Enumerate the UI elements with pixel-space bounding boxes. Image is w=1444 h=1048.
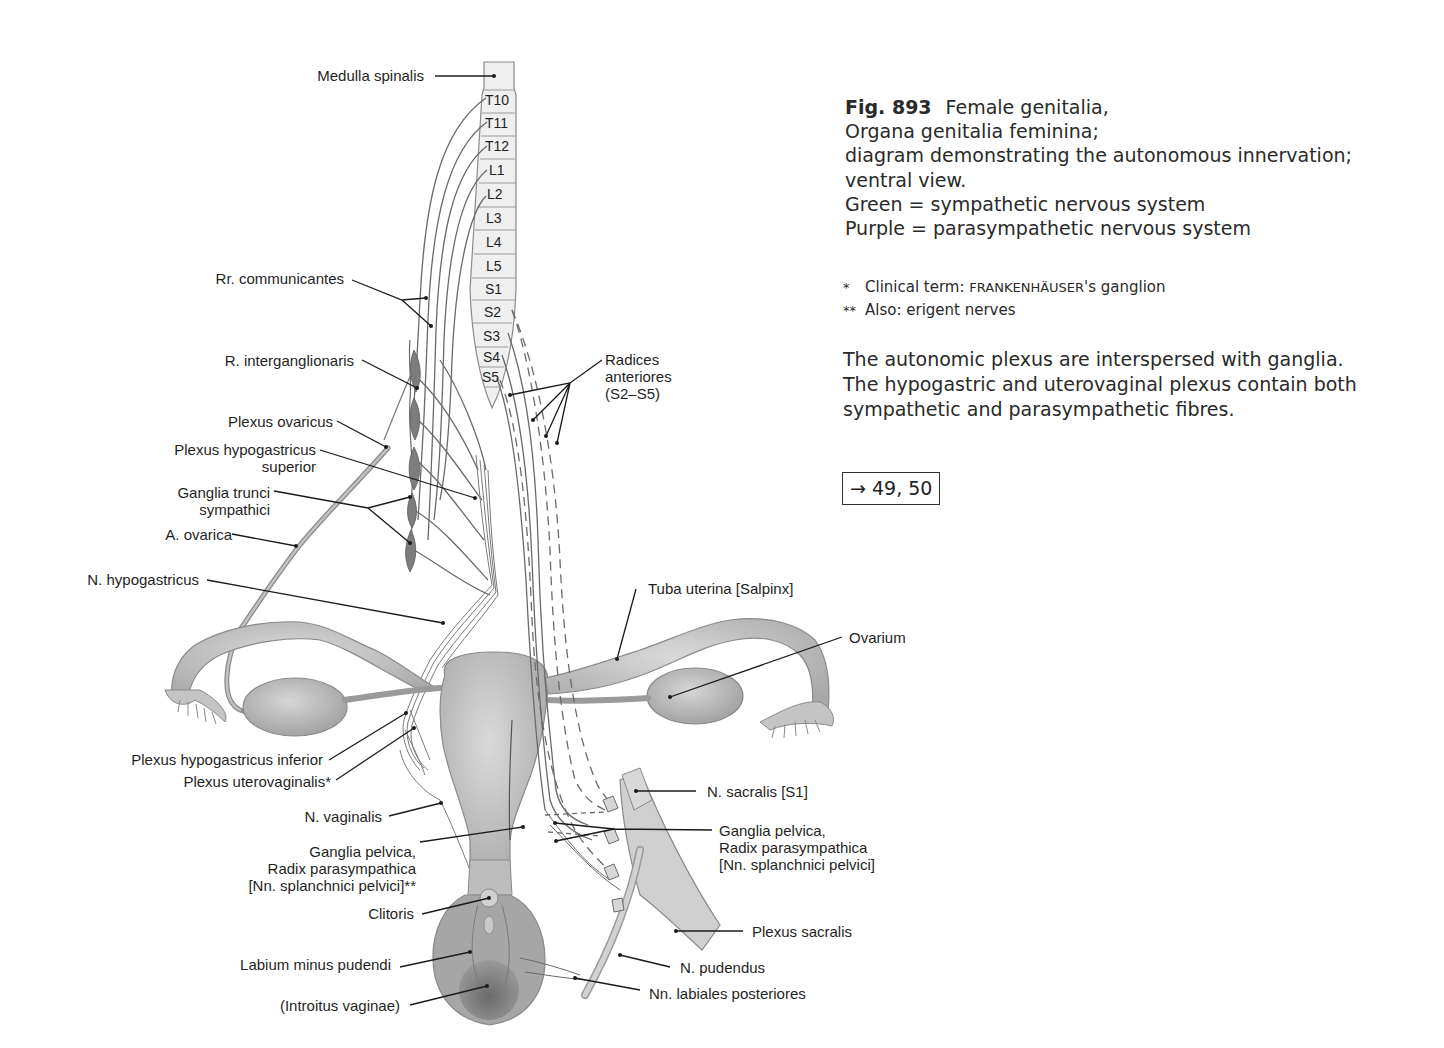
label-line-1: Ganglia pelvica, bbox=[100, 843, 416, 860]
label-n-sacralis: N. sacralis [S1] bbox=[707, 783, 808, 800]
label-line-2: anteriores bbox=[605, 368, 672, 385]
caption-line: diagram demonstrating the autonomous inn… bbox=[845, 143, 1352, 167]
left-fimbriae bbox=[165, 690, 226, 724]
label-nn-labiales-posteriores: Nn. labiales posteriores bbox=[649, 985, 806, 1002]
figure-caption: Fig. 893Female genitalia, Organa genital… bbox=[845, 95, 1352, 240]
label-ganglia-pelvica-right: Ganglia pelvica, Radix parasympathica [N… bbox=[719, 822, 875, 873]
body-text: The autonomic plexus are interspersed wi… bbox=[843, 347, 1357, 422]
caption-line: Green = sympathetic nervous system bbox=[845, 192, 1352, 216]
body-text-line: The autonomic plexus are interspersed wi… bbox=[843, 347, 1357, 372]
pelvic-ganglia bbox=[603, 796, 624, 912]
label-plexus-hypogastricus-inferior: Plexus hypogastricus inferior bbox=[40, 751, 323, 768]
cross-reference-box[interactable]: → 49, 50 bbox=[842, 472, 940, 505]
label-line-1: Radices bbox=[605, 351, 672, 368]
footnote-mark: * bbox=[843, 277, 865, 299]
label-line-1: Ganglia pelvica, bbox=[719, 822, 875, 839]
label-plexus-hypogastricus-superior: Plexus hypogastricus superior bbox=[60, 441, 316, 475]
segment-l3: L3 bbox=[486, 210, 502, 227]
caption-line: Purple = parasympathetic nervous system bbox=[845, 216, 1352, 240]
label-line-3: (S2–S5) bbox=[605, 385, 672, 402]
label-plexus-sacralis: Plexus sacralis bbox=[752, 923, 852, 940]
label-ganglia-trunci-sympathici: Ganglia trunci sympathici bbox=[60, 484, 270, 518]
segment-t11: T11 bbox=[485, 115, 508, 132]
figure-number: Fig. 893 bbox=[845, 96, 932, 118]
segment-s4: S4 bbox=[483, 349, 500, 366]
segment-s3: S3 bbox=[483, 328, 500, 345]
label-ganglia-pelvica-left: Ganglia pelvica, Radix parasympathica [N… bbox=[100, 843, 416, 894]
label-clitoris: Clitoris bbox=[100, 905, 414, 922]
label-n-pudendus: N. pudendus bbox=[680, 959, 765, 976]
footnote-smallcaps-name: FRANKENHÄUSER bbox=[969, 280, 1084, 295]
footnote-mark: ** bbox=[843, 300, 865, 322]
label-n-hypogastricus: N. hypogastricus bbox=[40, 571, 199, 588]
label-plexus-ovaricus: Plexus ovaricus bbox=[100, 413, 333, 430]
segment-s5: S5 bbox=[482, 369, 499, 386]
segment-l2: L2 bbox=[487, 186, 503, 203]
label-n-vaginalis: N. vaginalis bbox=[100, 808, 382, 825]
segment-l4: L4 bbox=[486, 234, 502, 251]
left-ovary bbox=[243, 678, 347, 736]
segment-t10: T10 bbox=[485, 92, 509, 109]
footnote-1: *Clinical term: FRANKENHÄUSER's ganglion bbox=[843, 276, 1166, 299]
arrow-right-icon: → bbox=[850, 477, 866, 499]
segment-s2: S2 bbox=[484, 304, 501, 321]
footnote-suffix: 's ganglion bbox=[1084, 278, 1165, 296]
segment-l5: L5 bbox=[486, 258, 502, 275]
label-introitus-vaginae: (Introitus vaginae) bbox=[100, 997, 400, 1014]
segment-l1: L1 bbox=[489, 162, 505, 179]
segment-t12: T12 bbox=[485, 138, 509, 155]
label-rr-communicantes: Rr. communicantes bbox=[100, 270, 344, 287]
label-tuba-uterina: Tuba uterina [Salpinx] bbox=[648, 580, 793, 597]
right-fimbriae bbox=[760, 702, 834, 738]
body-text-line: sympathetic and parasympathetic fibres. bbox=[843, 397, 1357, 422]
label-plexus-uterovaginalis: Plexus uterovaginalis* bbox=[40, 773, 331, 790]
label-labium-minus-pudendi: Labium minus pudendi bbox=[100, 956, 391, 973]
label-ovarium: Ovarium bbox=[849, 629, 906, 646]
footnote-2: **Also: erigent nerves bbox=[843, 299, 1166, 322]
label-r-interganglionaris: R. interganglionaris bbox=[100, 352, 354, 369]
cross-reference-pages: 49, 50 bbox=[872, 477, 932, 499]
label-line-1: Plexus hypogastricus bbox=[60, 441, 316, 458]
label-line-3: [Nn. splanchnici pelvici]** bbox=[100, 877, 416, 894]
label-a-ovarica: A. ovarica bbox=[60, 526, 232, 543]
label-line-2: Radix parasympathica bbox=[719, 839, 875, 856]
label-medulla-spinalis: Medulla spinalis bbox=[200, 67, 424, 84]
figure-title: Female genitalia, bbox=[946, 96, 1109, 118]
footnote-text: Also: erigent nerves bbox=[865, 301, 1016, 319]
footnote-text: Clinical term: bbox=[865, 278, 969, 296]
label-radices-anteriores: Radices anteriores (S2–S5) bbox=[605, 351, 672, 402]
label-line-2: Radix parasympathica bbox=[100, 860, 416, 877]
segment-s1: S1 bbox=[485, 281, 502, 298]
body-text-line: The hypogastric and uterovaginal plexus … bbox=[843, 372, 1357, 397]
label-line-3: [Nn. splanchnici pelvici] bbox=[719, 856, 875, 873]
caption-line: ventral view. bbox=[845, 168, 1352, 192]
caption-line: Organa genitalia feminina; bbox=[845, 119, 1352, 143]
label-line-2: sympathici bbox=[60, 501, 270, 518]
footnotes: *Clinical term: FRANKENHÄUSER's ganglion… bbox=[843, 276, 1166, 322]
caption-title-line: Fig. 893Female genitalia, bbox=[845, 95, 1352, 119]
label-line-2: superior bbox=[60, 458, 316, 475]
label-line-1: Ganglia trunci bbox=[60, 484, 270, 501]
